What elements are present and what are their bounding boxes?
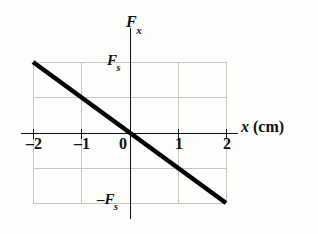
x-axis-label-unit: (cm): [253, 118, 284, 135]
x-tick-label-2: 2: [220, 136, 234, 152]
y-axis-label-subscript: x: [136, 24, 141, 36]
y-tick-label-fs: Fs: [107, 53, 121, 71]
y-tick-label-neg-fs-sign: –: [97, 191, 105, 207]
x-axis-label: x(cm): [241, 119, 284, 135]
y-axis-label: Fx: [126, 14, 142, 33]
x-axis-label-symbol: x: [241, 118, 249, 135]
y-tick-label-fs-symbol: F: [107, 52, 117, 68]
force-vs-displacement-figure: Fx x(cm) Fs –Fs –2 –1 0 1 2: [0, 0, 318, 234]
y-tick-label-neg-fs: –Fs: [97, 192, 118, 210]
y-tick-label-fs-subscript: s: [117, 62, 121, 73]
x-tick-label-1: 1: [172, 136, 186, 152]
y-tick-label-neg-fs-subscript: s: [114, 201, 118, 212]
x-tick-label--2: –2: [25, 136, 43, 152]
plot-canvas: [0, 0, 318, 234]
y-tick-label-neg-fs-symbol: F: [105, 191, 115, 207]
x-tick-label--1: –1: [73, 136, 91, 152]
x-tick-label-0: 0: [115, 136, 131, 152]
force-line-series: [33, 62, 226, 203]
